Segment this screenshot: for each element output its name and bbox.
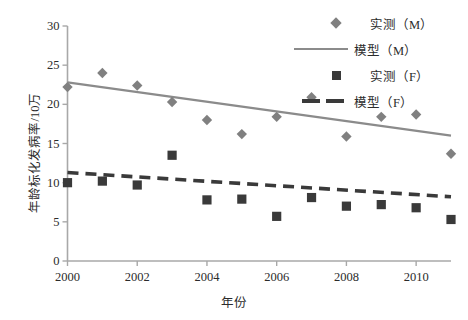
male-data-point	[271, 112, 281, 122]
female-data-point	[412, 203, 421, 212]
male-data-point	[376, 112, 386, 122]
male-data-point	[446, 148, 456, 158]
female-data-point	[98, 177, 107, 186]
female-data-point	[377, 200, 386, 209]
male-data-point	[97, 68, 107, 78]
legend-item-observed-male[interactable]: 实测（M）	[308, 12, 433, 34]
solid-line-icon	[294, 48, 348, 50]
female-data-point	[342, 202, 351, 211]
female-observed-markers	[63, 151, 456, 224]
x-tick-label: 2010	[388, 271, 444, 284]
legend-key-line-dashed-dark	[292, 91, 350, 111]
legend-key-line-solid-gray	[292, 39, 350, 59]
male-data-point	[132, 80, 142, 90]
male-data-point	[237, 129, 247, 139]
female-data-point	[237, 195, 246, 204]
female-data-point	[272, 212, 281, 221]
dashed-line-icon-2	[326, 99, 344, 103]
dashed-line-icon	[302, 99, 320, 103]
female-data-point	[133, 180, 142, 189]
x-axis-title: 年份	[0, 292, 468, 311]
legend-label-observed-female: 实测（F）	[366, 66, 429, 85]
legend-label-model-female: 模型（F）	[350, 92, 413, 111]
female-data-point	[307, 193, 316, 202]
legend-label-model-male: 模型（M）	[350, 40, 417, 59]
legend-label-observed-male: 实测（M）	[366, 14, 433, 33]
x-tick-label: 2002	[109, 271, 165, 284]
male-data-point	[202, 115, 212, 125]
x-tick-label: 2008	[318, 271, 374, 284]
legend-item-model-male[interactable]: 模型（M）	[292, 38, 417, 60]
female-data-point	[202, 195, 211, 204]
y-tick-label: 0	[28, 255, 60, 268]
male-data-point	[341, 131, 351, 141]
y-axis-title: 年龄标化发病率/10万	[24, 73, 43, 233]
legend-key-diamond-gray	[308, 13, 366, 33]
female-data-point	[167, 151, 176, 160]
legend-item-model-female[interactable]: 模型（F）	[292, 90, 413, 112]
chart-figure: 051015202530 200020022004200620082010 年龄…	[0, 0, 468, 320]
y-tick-label: 25	[28, 59, 60, 72]
female-data-point	[446, 215, 455, 224]
y-tick-label: 30	[28, 20, 60, 33]
x-tick-label: 2000	[40, 271, 96, 284]
legend-item-observed-female[interactable]: 实测（F）	[308, 64, 429, 86]
x-tick-label: 2004	[179, 271, 235, 284]
female-model-trendline	[68, 172, 452, 196]
female-data-point	[63, 178, 72, 187]
diamond-marker-icon	[330, 17, 341, 28]
square-marker-icon	[332, 71, 341, 80]
legend-key-square-dark	[308, 65, 366, 85]
x-tick-label: 2006	[249, 271, 305, 284]
